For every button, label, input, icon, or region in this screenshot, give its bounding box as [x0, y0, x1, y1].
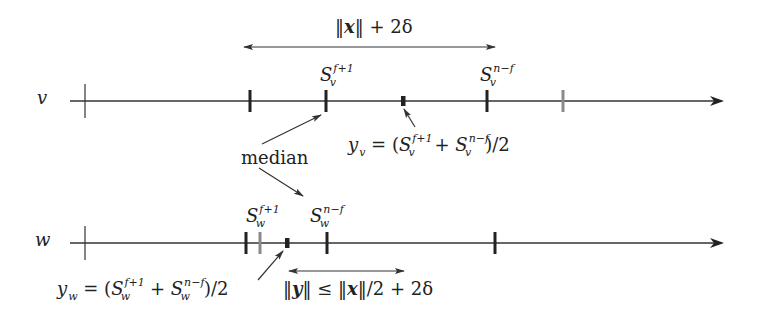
axis-label-v: v: [37, 89, 47, 107]
yv-pointer-arrow: [404, 109, 415, 127]
median-arrow-v: [262, 115, 321, 144]
midpoint-marker-yw: [285, 238, 290, 248]
median-label: median: [241, 149, 308, 167]
label-sw-nf: Sn−fw: [310, 207, 329, 225]
number-line-v: [70, 84, 722, 118]
bottom-range-label: ‖y‖ ≤ ‖x‖/2 + 2δ: [283, 280, 433, 298]
median-arrow-w: [259, 168, 303, 196]
yw-formula: yw = (Sf+1w + Sn−fw)/2: [57, 280, 228, 298]
number-line-w: [70, 226, 722, 260]
top-range-label: ‖x‖ + 2δ: [335, 18, 413, 36]
yw-pointer-arrow: [258, 251, 283, 280]
label-sv-f1: Sf+1v: [320, 66, 336, 84]
diagram-canvas: [0, 0, 758, 317]
median-contraction-diagram: v w ‖x‖ + 2δ Sf+1v Sn−fv yv = (Sf+1v + S…: [0, 0, 758, 317]
axis-label-w: w: [35, 231, 50, 249]
yv-formula: yv = (Sf+1v + Sn−fv)/2: [348, 136, 510, 154]
label-sv-nf: Sn−fv: [480, 66, 496, 84]
label-sw-f1: Sf+1w: [246, 207, 265, 225]
midpoint-marker-yv: [401, 96, 406, 106]
